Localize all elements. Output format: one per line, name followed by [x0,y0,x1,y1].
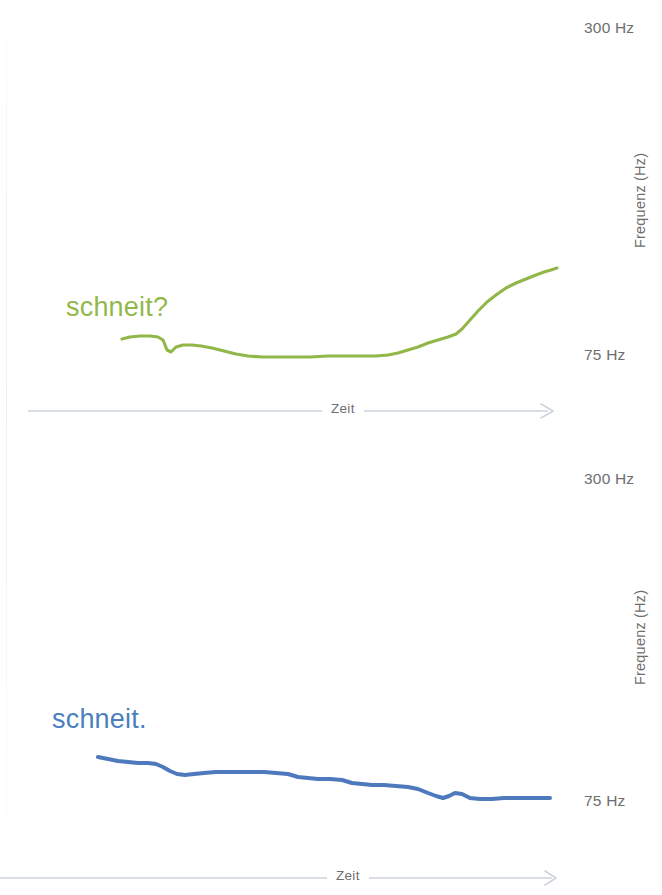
pitch-contour-statement [0,440,662,895]
panel-statement: 300 Hz Frequenz (Hz) 75 Hz schneit. Zeit [0,440,662,895]
x-axis-title-top: Zeit [322,401,364,416]
panel-question: 300 Hz Frequenz (Hz) 75 Hz schneit? Zeit [0,0,662,440]
x-axis-time-bottom: Zeit [0,867,560,889]
figure-canvas: 300 Hz Frequenz (Hz) 75 Hz schneit? Zeit… [0,0,662,895]
x-axis-time-top: Zeit [0,400,560,422]
x-axis-title-bottom: Zeit [327,868,369,883]
pitch-contour-question [0,0,662,440]
